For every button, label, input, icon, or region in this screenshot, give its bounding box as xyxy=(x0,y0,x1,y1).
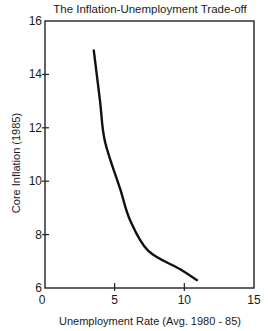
x-axis-label: Unemployment Rate (Avg. 1980 - 85) xyxy=(59,315,241,327)
y-tick-label: 14 xyxy=(29,67,43,81)
trade-off-curve xyxy=(94,50,197,280)
x-tick-label: 0 xyxy=(39,293,46,307)
y-tick-label: 6 xyxy=(35,281,42,295)
y-axis-label: Core Inflation (1985) xyxy=(10,113,22,213)
y-tick-label: 8 xyxy=(35,228,42,242)
x-tick-label: 5 xyxy=(111,293,118,307)
chart-title: The Inflation-Unemployment Trade-off xyxy=(53,3,247,15)
y-axis: 6810121416 xyxy=(29,14,49,295)
plot-frame xyxy=(45,21,254,288)
chart: The Inflation-Unemployment Trade-off 051… xyxy=(0,0,268,331)
x-tick-label: 10 xyxy=(178,293,192,307)
y-tick-label: 12 xyxy=(29,121,43,135)
y-tick-label: 16 xyxy=(29,14,43,28)
y-tick-label: 10 xyxy=(29,174,43,188)
x-axis: 051015 xyxy=(39,283,261,307)
x-tick-label: 15 xyxy=(247,293,261,307)
